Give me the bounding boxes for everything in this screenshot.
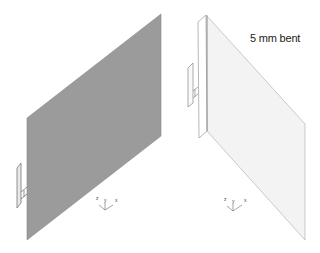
- bent-plate: [207, 16, 305, 240]
- axis-x-left: x: [115, 198, 118, 203]
- bent-annotation: 5 mm bent: [250, 32, 300, 44]
- flat-plate: [27, 14, 161, 240]
- axis-x-right: x: [244, 198, 247, 203]
- axis-triad-right: [227, 204, 242, 211]
- axis-z-right: z: [224, 197, 227, 202]
- right-bracket: [188, 63, 198, 107]
- right-view: [188, 15, 305, 240]
- axis-y-left: y: [104, 198, 107, 203]
- left-bracket: [17, 163, 27, 208]
- left-view: [17, 14, 161, 240]
- bent-flange: [198, 15, 207, 138]
- axis-triad-left: [99, 203, 113, 210]
- axis-y-right: y: [232, 199, 235, 204]
- axis-z-left: z: [96, 196, 99, 201]
